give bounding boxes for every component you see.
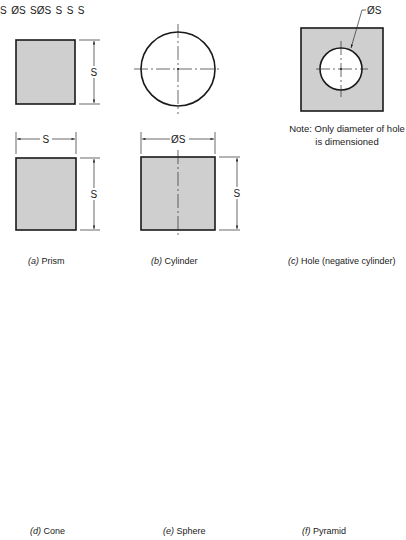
caption-cylinder: (b) Cylinder xyxy=(151,256,198,266)
caption-letter: (b) xyxy=(151,256,162,266)
hole-note: Note: Only diameter of hole is dimension… xyxy=(288,122,406,148)
caption-prism: (a) Prism xyxy=(28,256,65,266)
caption-sphere: (e) Sphere xyxy=(163,526,206,536)
prism-top-view: S xyxy=(16,40,100,104)
hole-top-view: ØS xyxy=(301,5,383,111)
caption-letter: (e) xyxy=(163,526,174,536)
dim-label: S xyxy=(43,134,50,145)
caption-text: Pyramid xyxy=(313,526,346,536)
prism-front-view: S S xyxy=(16,132,100,230)
dim-label: ØS xyxy=(171,134,186,145)
cylinder-top-view xyxy=(134,24,222,114)
note-line-1: Note: Only diameter of hole xyxy=(288,122,406,135)
caption-cone: (d) Cone xyxy=(30,526,65,536)
caption-letter: (f) xyxy=(302,526,311,536)
caption-letter: (a) xyxy=(28,256,39,266)
caption-text: Cylinder xyxy=(165,256,198,266)
caption-letter: (d) xyxy=(30,526,41,536)
dim-label: S xyxy=(91,189,98,200)
caption-letter: (c) xyxy=(288,256,299,266)
dim-label: ØS xyxy=(367,5,382,16)
caption-pyramid: (f) Pyramid xyxy=(302,526,346,536)
caption-text: Hole (negative cylinder) xyxy=(301,256,396,266)
caption-text: Prism xyxy=(42,256,65,266)
caption-text: Cone xyxy=(44,526,66,536)
dim-label: S xyxy=(234,188,241,199)
caption-hole: (c) Hole (negative cylinder) xyxy=(288,256,396,266)
dim-label: S xyxy=(91,67,98,78)
caption-text: Sphere xyxy=(177,526,206,536)
dimensioning-diagram: S S S ØS S xyxy=(0,0,406,540)
cylinder-front-view: ØS S xyxy=(141,132,241,238)
note-line-2: is dimensioned xyxy=(288,135,406,148)
